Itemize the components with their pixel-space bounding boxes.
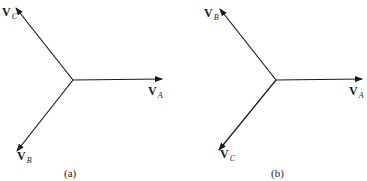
phasor-vb-arrow-b [220,9,276,80]
phasor-vc-arrow-b [219,80,276,150]
label-subscript: A [158,91,163,100]
caption-a: (a) [64,168,76,179]
label-subscript: C [230,154,235,163]
label-vb-b: VB [204,7,219,19]
phasor-va-arrow-b [276,79,362,80]
label-vc-b: VC [220,148,235,160]
label-subscript: A [359,91,364,100]
phasor-va-arrow-a [73,79,162,80]
label-va-a: VA [148,85,163,97]
label-symbol: V [220,147,229,161]
label-symbol: V [17,149,26,163]
phasor-vb-arrow-a [17,80,73,151]
label-vc-a: VC [2,6,17,18]
label-va-b: VA [349,85,364,97]
label-symbol: V [2,5,11,19]
label-symbol: V [204,6,213,20]
phasor-diagram-b [219,9,362,150]
phasor-vc-arrow-a [16,8,73,80]
label-subscript: B [214,13,219,22]
label-symbol: V [349,84,358,98]
label-vb-a: VB [17,150,32,162]
phasor-diagrams-canvas [0,0,367,181]
label-symbol: V [148,84,157,98]
label-subscript: B [27,156,32,165]
label-subscript: C [12,12,17,21]
phasor-diagram-a [16,8,162,151]
caption-b: (b) [271,168,284,179]
